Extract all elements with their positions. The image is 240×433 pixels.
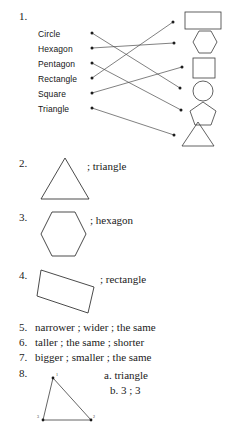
question-7-text: bigger ; smaller ; the same	[35, 351, 151, 363]
question-2-triangle-figure	[36, 154, 94, 202]
match-dot-right-circle[interactable]	[179, 87, 182, 90]
shape-hexagon[interactable]	[193, 31, 217, 53]
match-dot-left-circle[interactable]	[91, 32, 94, 35]
question-5: 5. narrower ; wider ; the same	[19, 322, 156, 333]
match-dot-left-hexagon[interactable]	[91, 47, 94, 50]
question-3-caption: ; hexagon	[90, 215, 133, 226]
match-dot-right-square[interactable]	[181, 66, 184, 69]
question-4-rectangle-figure	[36, 265, 102, 317]
question-3-number: 3.	[19, 212, 27, 223]
question-5-text: narrower ; wider ; the same	[35, 321, 156, 333]
question-7: 7. bigger ; smaller ; the same	[19, 352, 151, 363]
shape-square[interactable]	[193, 58, 215, 78]
rectangle-outline	[37, 270, 94, 313]
match-dot-right-pentagon[interactable]	[180, 109, 183, 112]
question-2-number: 2.	[19, 158, 27, 169]
match-dot-left-pentagon[interactable]	[91, 62, 94, 65]
question-8-vertex-1-number: 1	[56, 372, 58, 377]
shape-triangle[interactable]	[182, 122, 214, 146]
match-line-hexagon-to-hexagon	[92, 43, 174, 48]
match-line-pentagon-to-pentagon	[92, 63, 181, 110]
question-1-matching: 1. Circle Hexagon Pentagon Rectangle Squ…	[0, 0, 240, 152]
shape-rectangle[interactable]	[185, 12, 221, 29]
question-8-answer-b: b. 3 ; 3	[110, 385, 141, 396]
question-3-hexagon-figure	[36, 208, 90, 260]
question-8-vertex-1[interactable]	[52, 377, 55, 380]
shape-circle[interactable]	[193, 81, 213, 101]
shape-pentagon[interactable]	[190, 102, 216, 125]
matching-diagram	[0, 0, 240, 152]
match-dot-left-square[interactable]	[91, 92, 94, 95]
question-4: 4. ; rectangle	[0, 262, 240, 320]
match-dot-right-triangle[interactable]	[173, 134, 176, 137]
worksheet-page: 1. Circle Hexagon Pentagon Rectangle Squ…	[0, 0, 240, 433]
match-line-rectangle-to-rectangle	[92, 22, 173, 78]
question-8-triangle-figure: 1 2 3	[34, 368, 102, 430]
hexagon-outline	[41, 212, 86, 256]
match-dot-right-rectangle[interactable]	[172, 21, 175, 24]
match-dot-left-rectangle[interactable]	[91, 77, 94, 80]
question-5-number: 5.	[19, 321, 27, 333]
question-6: 6. taller ; the same ; shorter	[19, 337, 144, 348]
question-4-caption: ; rectangle	[100, 274, 146, 285]
match-dot-right-hexagon[interactable]	[173, 42, 176, 45]
question-6-number: 6.	[19, 336, 27, 348]
match-line-circle-to-circle	[92, 33, 180, 88]
question-8-vertex-3-number: 3	[37, 414, 39, 419]
question-8-vertex-2[interactable]	[90, 419, 93, 422]
triangle-outline	[41, 158, 89, 199]
question-6-text: taller ; the same ; shorter	[35, 336, 144, 348]
question-8-vertex-3[interactable]	[42, 419, 45, 422]
question-2: 2. ; triangle	[0, 152, 240, 204]
question-8-answer-a: a. triangle	[104, 370, 148, 381]
question-8-number: 8.	[19, 368, 27, 379]
match-line-triangle-to-triangle	[92, 108, 174, 135]
question-3: 3. ; hexagon	[0, 204, 240, 262]
match-dot-left-triangle[interactable]	[91, 107, 94, 110]
question-4-number: 4.	[19, 270, 27, 281]
question-2-caption: ; triangle	[87, 161, 126, 172]
question-7-number: 7.	[19, 351, 27, 363]
question-8-vertex-2-number: 2	[93, 414, 95, 419]
match-line-square-to-square	[92, 67, 182, 93]
question-8-triangle-outline	[43, 378, 91, 420]
question-8: 8. 1 2 3 a. triangle b. 3 ; 3	[0, 368, 240, 433]
